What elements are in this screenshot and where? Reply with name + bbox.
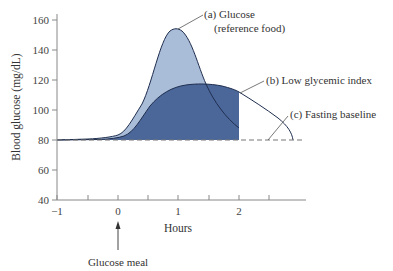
annot-b-label: (b) Low glycemic index [266,74,372,87]
svg-text:120: 120 [33,74,50,86]
svg-text:140: 140 [33,44,50,56]
annot-a-label: (a) Glucose [204,8,255,21]
svg-text:−1: −1 [51,205,63,217]
y-tick-labels: 40 60 80 100 120 140 160 [33,14,50,206]
annot-c-leader [268,116,288,140]
svg-text:1: 1 [175,205,181,217]
svg-text:0: 0 [115,205,121,217]
y-axis-title: Blood glucose (mg/dL) [10,53,23,160]
annot-a-leader [178,15,203,29]
svg-text:2: 2 [236,205,242,217]
x-tick-labels: −1 0 1 2 [51,205,242,217]
x-axis-title: Hours [164,222,193,234]
svg-text:100: 100 [33,104,50,116]
glucose-meal-label: Glucose meal [88,256,148,268]
glycemic-chart: 40 60 80 100 120 140 160 −1 0 1 2 Hours … [0,0,393,271]
glucose-meal-arrow [116,221,121,250]
annot-c-label: (c) Fasting baseline [290,108,376,121]
annot-b-leader [240,81,264,93]
svg-text:60: 60 [38,164,50,176]
svg-text:160: 160 [33,14,50,26]
svg-text:40: 40 [38,194,50,206]
x-ticks [57,195,269,200]
svg-text:80: 80 [38,134,50,146]
annot-a-sublabel: (reference food) [214,22,285,35]
y-ticks [52,20,57,200]
